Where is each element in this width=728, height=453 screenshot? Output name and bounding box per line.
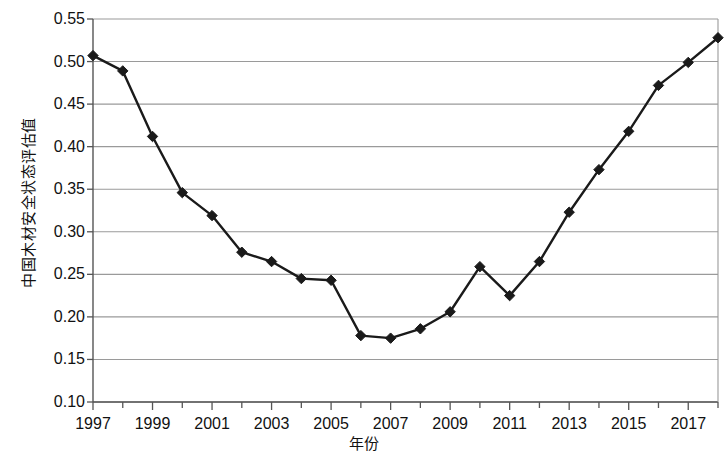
data-line <box>93 38 718 338</box>
data-point-marker <box>118 66 128 76</box>
series-polyline <box>93 38 718 338</box>
axis-ticks <box>87 19 718 410</box>
data-point-marker <box>147 131 157 141</box>
data-point-marker <box>385 333 395 343</box>
data-point-marker <box>266 256 276 266</box>
data-markers <box>88 33 723 344</box>
data-point-marker <box>415 324 425 334</box>
data-point-marker <box>296 273 306 283</box>
gridlines <box>93 19 718 402</box>
data-point-marker <box>356 330 366 340</box>
chart-figure: 中国木材安全状态评估值 年份 0.100.150.200.250.300.350… <box>0 0 728 453</box>
plot-frame <box>93 19 718 402</box>
plot-area <box>0 0 728 453</box>
data-point-marker <box>88 50 98 60</box>
data-point-marker <box>326 275 336 285</box>
